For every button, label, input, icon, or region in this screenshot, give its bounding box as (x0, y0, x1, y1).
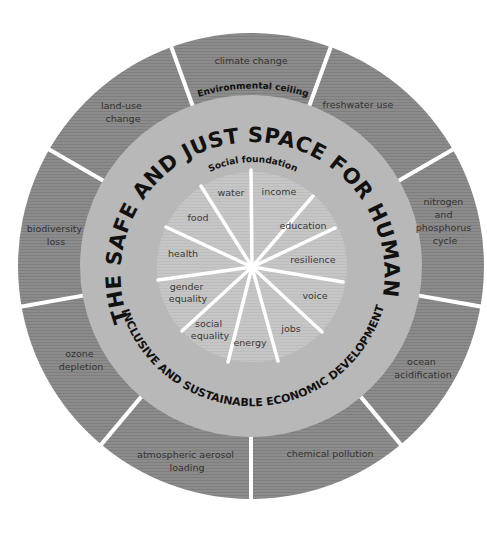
label-education: education (279, 220, 326, 231)
label-social-equality: social equality (191, 318, 230, 341)
label-resilience: resilience (290, 254, 335, 265)
label-voice: voice (302, 290, 327, 301)
label-chemical-pollution: chemical pollution (286, 448, 373, 459)
label-energy: energy (233, 337, 266, 348)
label-climate-change: climate change (214, 55, 287, 66)
label-water: water (217, 187, 244, 198)
label-jobs: jobs (280, 323, 300, 334)
label-health: health (168, 248, 198, 259)
label-gender-equality: gender equality (169, 281, 208, 304)
label-food: food (188, 212, 209, 223)
label-freshwater-use: freshwater use (323, 99, 394, 110)
doughnut-diagram: THE SAFE AND JUST SPACE FOR HUMANITY INC… (0, 0, 487, 536)
label-income: income (262, 186, 297, 197)
